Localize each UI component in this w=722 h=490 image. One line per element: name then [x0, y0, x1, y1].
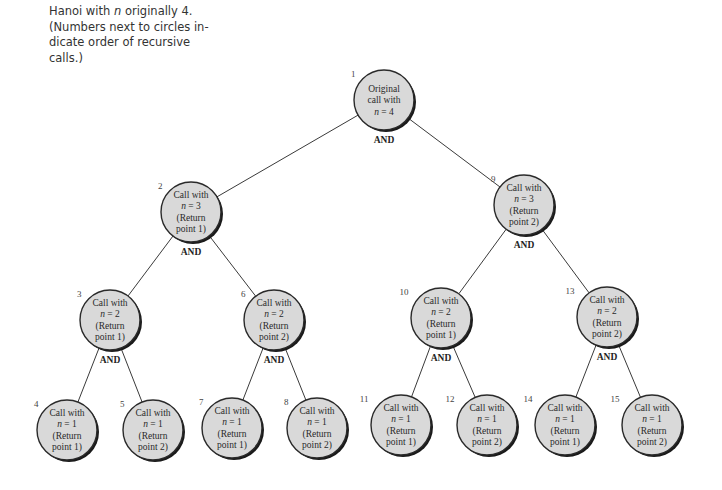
tree-node-1: Originalcall withn = 41AND: [351, 69, 416, 145]
call-order-number: 9: [491, 174, 496, 184]
recursion-tree-diagram: Originalcall withn = 41ANDCall withn = 3…: [0, 0, 722, 490]
call-order-number: 3: [77, 289, 82, 299]
node-label-line: point 2): [302, 440, 332, 451]
node-label-line: point 1): [176, 224, 206, 235]
call-order-number: 5: [120, 399, 125, 409]
node-label-line: Call with: [49, 408, 84, 418]
node-label-line: point 2): [637, 437, 667, 448]
node-label-line: Call with: [135, 408, 170, 418]
node-label-line: (Return: [302, 429, 331, 440]
call-order-number: 11: [360, 394, 369, 404]
node-label-line: point 1): [386, 437, 416, 448]
node-label-line: (Return: [138, 431, 167, 442]
tree-node-11: Call withn = 1(Returnpoint 1)11: [360, 394, 433, 457]
tree-edges: [78, 115, 641, 402]
call-order-number: 15: [610, 394, 620, 404]
call-order-number: 7: [199, 397, 204, 407]
node-label-line: (Return: [426, 319, 455, 330]
node-label-line: n = 3: [181, 201, 201, 211]
node-label-line: (Return: [637, 426, 666, 437]
tree-node-6: Call withn = 2(Returnpoint 2)6AND: [241, 289, 306, 365]
node-label-line: point 1): [426, 330, 456, 341]
tree-node-13: Call withn = 2(Returnpoint 2)13AND: [565, 286, 639, 362]
node-label-line: Call with: [506, 183, 541, 193]
node-label-line: n = 1: [642, 414, 662, 424]
node-label-line: point 2): [138, 442, 168, 453]
node-label-line: n = 2: [431, 307, 451, 317]
call-order-number: 13: [565, 286, 575, 296]
and-label: AND: [374, 135, 395, 145]
node-label-line: (Return: [95, 321, 124, 332]
node-label-line: n = 1: [555, 414, 575, 424]
tree-node-2: Call withn = 3(Returnpoint 1)2AND: [158, 181, 223, 257]
node-label-line: n = 1: [307, 417, 327, 427]
node-label-line: point 2): [509, 217, 539, 228]
node-label-line: point 2): [259, 332, 289, 343]
and-label: AND: [264, 355, 285, 365]
tree-node-4: Call withn = 1(Returnpoint 1)4: [34, 399, 99, 462]
node-label-line: point 1): [52, 442, 82, 453]
node-label-line: (Return: [52, 431, 81, 442]
tree-node-9: Call withn = 3(Returnpoint 2)9AND: [491, 174, 556, 250]
node-label-line: Call with: [589, 295, 624, 305]
node-label-line: n = 1: [222, 417, 242, 427]
node-label-line: n = 1: [57, 419, 77, 429]
node-label-line: (Return: [472, 426, 501, 437]
call-order-number: 4: [34, 399, 39, 409]
tree-edge: [209, 236, 255, 296]
call-order-number: 14: [523, 394, 533, 404]
tree-node-10: Call withn = 2(Returnpoint 1)10AND: [399, 287, 473, 363]
call-order-number: 12: [445, 394, 454, 404]
node-label-line: n = 2: [597, 306, 617, 316]
and-label: AND: [181, 247, 202, 257]
tree-edge: [619, 345, 641, 398]
and-label: AND: [597, 352, 618, 362]
node-label-line: point 1): [95, 332, 125, 343]
node-label-line: (Return: [386, 426, 415, 437]
node-label-line: Call with: [634, 403, 669, 413]
tree-node-7: Call withn = 1(Returnpoint 1)7: [199, 397, 264, 460]
tree-edge: [121, 348, 142, 402]
tree-node-3: Call withn = 2(Returnpoint 1)3AND: [77, 289, 142, 365]
tree-edge: [408, 118, 500, 187]
node-label-line: n = 2: [100, 309, 120, 319]
node-label-line: (Return: [259, 321, 288, 332]
node-label-line: Call with: [423, 296, 458, 306]
node-label-line: n = 1: [477, 414, 497, 424]
tree-edge: [453, 346, 475, 398]
node-label-line: Original: [368, 84, 400, 94]
call-order-number: 1: [351, 69, 356, 79]
call-order-number: 6: [241, 289, 246, 299]
node-label-line: (Return: [176, 213, 205, 224]
node-label-line: point 2): [592, 329, 622, 340]
node-label-line: (Return: [217, 429, 246, 440]
node-label-line: Call with: [547, 403, 582, 413]
node-label-line: Call with: [469, 403, 504, 413]
tree-edge: [78, 348, 99, 402]
node-label-line: Call with: [214, 406, 249, 416]
and-label: AND: [100, 355, 121, 365]
tree-edge: [576, 345, 596, 397]
tree-node-15: Call withn = 1(Returnpoint 2)15: [610, 394, 684, 457]
node-label-line: Call with: [383, 403, 418, 413]
node-label-line: Call with: [92, 298, 127, 308]
tree-edge: [243, 348, 263, 400]
tree-edge: [542, 229, 589, 293]
call-order-number: 10: [399, 287, 409, 297]
node-label-line: point 1): [550, 437, 580, 448]
and-label: AND: [431, 353, 452, 363]
node-label-line: n = 4: [374, 107, 394, 117]
tree-node-12: Call withn = 1(Returnpoint 2)12: [445, 394, 519, 457]
node-label-line: point 1): [217, 440, 247, 451]
tree-edge: [459, 229, 506, 294]
call-order-number: 8: [284, 397, 289, 407]
node-label-line: n = 1: [391, 414, 411, 424]
node-label-line: Call with: [299, 406, 334, 416]
node-label-line: call with: [368, 95, 401, 105]
call-order-number: 2: [158, 181, 163, 191]
tree-node-14: Call withn = 1(Returnpoint 1)14: [523, 394, 597, 457]
tree-nodes: Originalcall withn = 41ANDCall withn = 3…: [34, 69, 684, 462]
node-label-line: Call with: [173, 190, 208, 200]
tree-edge: [285, 348, 306, 400]
node-label-line: point 2): [472, 437, 502, 448]
